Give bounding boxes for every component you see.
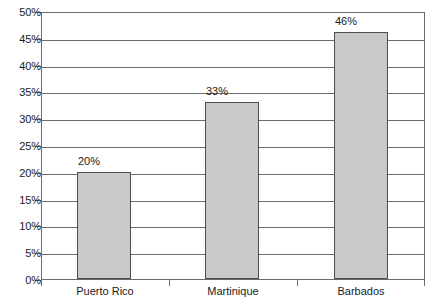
y-axis-label: 10%	[7, 221, 41, 232]
bar-value-label-puerto-rico: 20%	[49, 155, 129, 167]
y-axis-label: 20%	[7, 167, 41, 178]
x-tick	[169, 280, 170, 286]
y-axis-label: 45%	[7, 33, 41, 44]
x-tick	[41, 280, 42, 286]
x-tick	[297, 280, 298, 286]
plot-area	[41, 12, 425, 280]
x-axis: Puerto Rico Martinique Barbados	[41, 280, 425, 303]
bar-puerto-rico	[77, 172, 131, 279]
bar-chart: 50% 45% 40% 35% 30% 25% 20% 15% 10% 5% 0…	[0, 0, 434, 303]
y-axis-label: 40%	[7, 60, 41, 71]
y-axis-label: 25%	[7, 141, 41, 152]
bar-barbados	[334, 32, 388, 279]
y-axis-label: 15%	[7, 194, 41, 205]
bar-value-label-barbados: 46%	[306, 15, 386, 27]
y-axis-label: 5%	[7, 248, 41, 259]
x-axis-category-label: Puerto Rico	[43, 285, 167, 297]
y-axis-label: 35%	[7, 87, 41, 98]
y-axis-label: 30%	[7, 114, 41, 125]
y-axis-label: 0%	[7, 275, 41, 286]
x-axis-category-label: Martinique	[171, 285, 295, 297]
bar-martinique	[205, 102, 259, 279]
x-axis-category-label: Barbados	[299, 285, 423, 297]
y-axis-label: 50%	[7, 7, 41, 18]
y-axis: 50% 45% 40% 35% 30% 25% 20% 15% 10% 5% 0…	[0, 12, 41, 280]
bar-value-label-martinique: 33%	[177, 85, 257, 97]
x-tick	[424, 280, 425, 286]
